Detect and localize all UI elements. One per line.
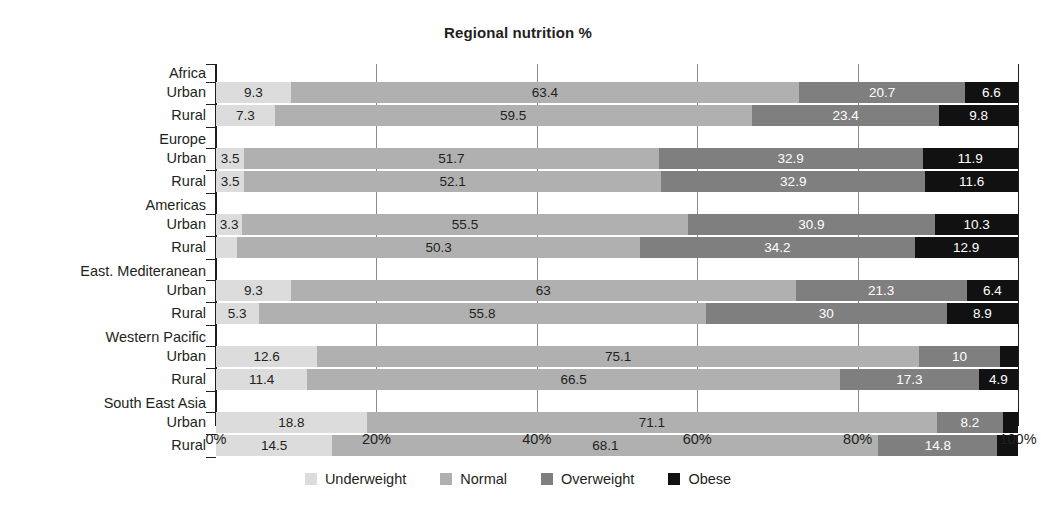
bar-value-label: 5.3	[228, 307, 247, 321]
bar-segment-normal: 55.8	[259, 303, 707, 324]
bar-segment-underweight: 12.6	[216, 346, 317, 367]
y-tick-row-5	[206, 259, 216, 260]
bar-row: 11.466.517.34.9	[216, 369, 1018, 390]
y-axis-region-east-mediteranean: East. Mediteranean	[80, 264, 206, 279]
bar-value-label: 63	[536, 284, 551, 298]
y-axis-row-americas-rural: Rural	[171, 240, 206, 255]
bar-value-label: 14.5	[261, 439, 287, 453]
bar-segment-overweight: 14.8	[878, 435, 997, 456]
bar-value-label: 68.1	[592, 439, 618, 453]
bar-segment-overweight: 17.3	[840, 369, 979, 390]
bar-segment-underweight: 3.5	[216, 171, 244, 192]
legend-item-normal[interactable]: Normal	[440, 472, 507, 487]
x-axis-tick-0: 0%	[206, 431, 227, 447]
bar-value-label: 2.3	[1022, 350, 1041, 364]
bar-segment-underweight: 14.5	[216, 435, 332, 456]
y-tick-row-9	[206, 391, 216, 392]
y-tick-group-5	[206, 412, 216, 413]
bar-value-label: 12.6	[253, 350, 279, 364]
bar-row: 14.568.114.82.6	[216, 435, 1018, 456]
bar-segment-obese: 2.3	[1000, 346, 1018, 367]
bar-value-label: 50.3	[425, 241, 451, 255]
x-axis-tick-60: 60%	[683, 431, 712, 447]
y-tick-group-3	[206, 280, 216, 281]
bar-segment-underweight: 18.8	[216, 412, 367, 433]
bar-row: 3.552.132.911.6	[216, 171, 1018, 192]
bar-segment-obese: 9.8	[939, 105, 1018, 126]
y-axis-row-east-mediteranean-urban: Urban	[167, 283, 207, 298]
bar-segment-underweight: 11.4	[216, 369, 307, 390]
y-axis-row-europe-rural: Rural	[171, 174, 206, 189]
bar-segment-normal: 50.3	[237, 237, 640, 258]
x-axis-tick-40: 40%	[522, 431, 551, 447]
bar-segment-obese: 12.9	[915, 237, 1018, 258]
legend-item-underweight[interactable]: Underweight	[305, 472, 406, 487]
bar-segment-normal: 63	[291, 280, 796, 301]
bar-value-label: 21.3	[868, 284, 894, 298]
bar-value-label: 7.3	[236, 109, 255, 123]
bar-segment-underweight: 7.3	[216, 105, 275, 126]
bar-row: 9.36321.36.4	[216, 280, 1018, 301]
bar-segment-underweight: 9.3	[216, 82, 291, 103]
y-tick-group-4	[206, 346, 216, 347]
bar-segment-overweight: 30	[706, 303, 947, 324]
y-axis-region-americas: Americas	[146, 198, 206, 213]
bar-value-label: 63.4	[532, 86, 558, 100]
bar-value-label: 51.7	[438, 152, 464, 166]
plot-area: 9.363.420.76.67.359.523.49.83.551.732.91…	[216, 64, 1018, 425]
y-axis-region-south-east-asia: South East Asia	[104, 396, 206, 411]
chart-legend: UnderweightNormalOverweightObese	[0, 472, 1036, 487]
bar-value-label: 3.3	[220, 218, 239, 232]
bar-value-label: 17.3	[896, 373, 922, 387]
bar-value-label: 20.7	[869, 86, 895, 100]
legend-swatch-icon	[305, 473, 317, 485]
bar-value-label: 75.1	[605, 350, 631, 364]
bar-value-label: 4.9	[989, 373, 1008, 387]
y-tick-row-2	[206, 170, 216, 171]
bar-value-label: 55.5	[452, 218, 478, 232]
bar-value-label: 32.9	[777, 152, 803, 166]
bar-segment-obese: 1.9	[1003, 412, 1018, 433]
bar-segment-underweight: 5.3	[216, 303, 259, 324]
y-tick-group-0	[206, 82, 216, 83]
y-axis-row-western-pacific-urban: Urban	[167, 349, 207, 364]
bar-segment-normal: 75.1	[317, 346, 919, 367]
bar-value-label: 8.9	[973, 307, 992, 321]
legend-label: Underweight	[325, 472, 406, 487]
bar-segment-normal: 68.1	[332, 435, 878, 456]
bar-row: 18.871.18.21.9	[216, 412, 1018, 433]
bar-value-label: 9.3	[244, 284, 263, 298]
legend-swatch-icon	[541, 473, 553, 485]
bar-segment-underweight: 3.5	[216, 148, 244, 169]
bar-value-label: 11.4	[249, 373, 274, 387]
bar-row: 9.363.420.76.6	[216, 82, 1018, 103]
y-tick-row-4	[206, 236, 216, 237]
bar-segment-obese: 6.6	[965, 82, 1018, 103]
bar-value-label: 1.9	[1022, 416, 1041, 430]
y-axis-row-africa-rural: Rural	[171, 108, 206, 123]
bar-segment-normal: 52.1	[244, 171, 661, 192]
bar-segment-obese: 8.9	[947, 303, 1018, 324]
bar-segment-overweight: 20.7	[799, 82, 965, 103]
bar-segment-obese: 6.4	[967, 280, 1018, 301]
legend-item-overweight[interactable]: Overweight	[541, 472, 634, 487]
bar-value-label: 52.1	[440, 175, 466, 189]
bar-value-label: 30.9	[798, 218, 824, 232]
x-axis-tick-80: 80%	[843, 431, 872, 447]
bar-row: 12.675.1102.3	[216, 346, 1018, 367]
legend-swatch-icon	[440, 473, 452, 485]
bar-value-label: 59.5	[500, 109, 526, 123]
bar-value-label: 6.4	[983, 284, 1002, 298]
y-axis-region-western-pacific: Western Pacific	[106, 330, 206, 345]
legend-item-obese[interactable]: Obese	[668, 472, 731, 487]
y-tick-row-7	[206, 325, 216, 326]
bar-segment-normal: 51.7	[244, 148, 659, 169]
bar-row: 3.551.732.911.9	[216, 148, 1018, 169]
x-axis-tick-100: 100%	[999, 431, 1036, 447]
y-axis-region-europe: Europe	[159, 132, 206, 147]
chart-title: Regional nutrition %	[0, 24, 1036, 41]
gridline-100	[1018, 64, 1019, 425]
bar-row: 7.359.523.49.8	[216, 105, 1018, 126]
bar-segment-normal: 59.5	[275, 105, 752, 126]
bar-value-label: 71.1	[639, 416, 665, 430]
